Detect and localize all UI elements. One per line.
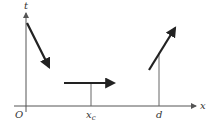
worldline-diagram: t x O xc d (0, 0, 211, 129)
d-label: d (156, 109, 162, 120)
origin-label: O (15, 109, 23, 120)
t-axis-label: t (24, 0, 29, 11)
x-axis-label: x (200, 100, 206, 111)
arrow-left-moving (27, 23, 49, 67)
xc-label: xc (86, 109, 96, 122)
arrow-right-moving (149, 28, 175, 70)
